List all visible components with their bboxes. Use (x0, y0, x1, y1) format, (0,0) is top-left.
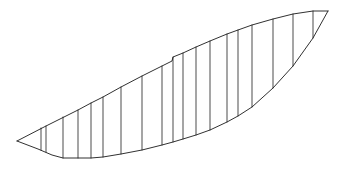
hull-sheer-line (17, 11, 328, 141)
hull-keel-line (17, 11, 328, 158)
hull-profile-drawing (0, 0, 339, 175)
hull-stations-group (41, 11, 313, 158)
figure-root (0, 0, 339, 175)
